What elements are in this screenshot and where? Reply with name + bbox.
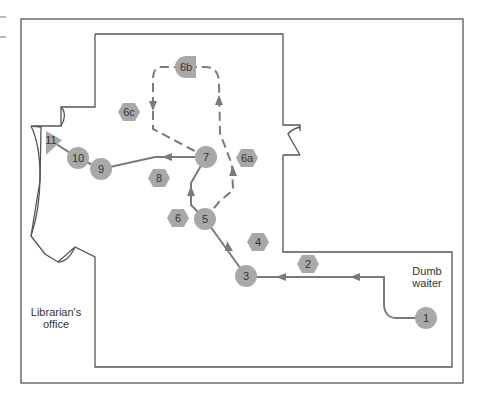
node-2: 2 [297,255,319,273]
node-4: 4 [247,233,269,251]
node-2-label: 2 [305,258,311,270]
route-1-to-3 [246,277,426,318]
node-6a-label: 6a [241,152,254,164]
node-10: 10 [67,147,89,169]
arrow-icon [149,101,157,111]
node-6c-label: 6c [123,106,135,118]
node-7: 7 [195,146,217,168]
dumb-waiter-label-line1: Dumb [412,265,441,277]
node-10-label: 10 [72,152,84,164]
dumb-waiter-label-line2: waiter [411,277,442,289]
arrow-icon [215,95,223,105]
left-curve-bottom [31,126,40,236]
node-1-label: 1 [423,312,429,324]
node-4-label: 4 [255,236,261,248]
node-1: 1 [415,307,437,329]
arrow-icon [187,186,195,196]
floor-plan-walls [31,34,452,367]
node-7-label: 7 [203,151,209,163]
node-6: 6 [167,209,189,227]
arrow-icon [225,241,233,251]
node-8: 8 [148,169,170,187]
node-9: 9 [90,158,112,180]
librarian-office-label-line2: office [43,318,69,330]
node-8-label: 8 [156,172,162,184]
arrow-icon [276,273,286,281]
route-dashed-loop [153,67,233,219]
node-6b: 6b [175,56,196,78]
node-9-label: 9 [98,163,104,175]
arrow-icon [350,273,360,281]
node-6c: 6c [118,103,140,121]
arrow-icon [162,153,172,161]
node-6a: 6a [236,149,258,167]
node-11: 11 [45,131,62,155]
node-6b-label: 6b [180,61,192,73]
node-3: 3 [235,265,257,287]
node-6-label: 6 [175,212,181,224]
node-11-label: 11 [45,134,56,146]
node-5: 5 [194,208,216,230]
librarian-office-label-line1: Librarian's [31,306,82,318]
floor-plan-diagram: 1 3 5 7 9 10 11 6b 2 4 6 [0,0,481,398]
right-door [288,127,300,155]
node-3-label: 3 [243,270,249,282]
node-5-label: 5 [202,213,208,225]
outer-frame [21,19,463,383]
arrow-icon [229,166,237,176]
